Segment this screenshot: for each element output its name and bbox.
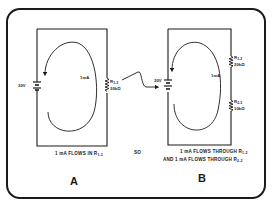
panel-a-label: A <box>70 175 78 187</box>
panel-b-resistor-2-label: R2-3 10kΩ <box>234 99 245 111</box>
connector-text: SO <box>134 150 141 155</box>
panel-b-caption-line-1: 1 mA FLOWS THROUGH R1-2 <box>180 149 248 155</box>
panel-b-voltage-label: 30V <box>154 78 162 83</box>
circuit-b <box>164 29 233 145</box>
panel-a-resistor-label: R1-3 30kΩ <box>110 79 121 91</box>
panel-b-resistor-1-label: R1-2 20kΩ <box>234 55 245 67</box>
panel-b-label: B <box>198 172 206 184</box>
panel-a-voltage-label: 30V <box>18 83 26 88</box>
transition-arrow <box>122 72 157 87</box>
panel-a-current-label: 1mA <box>80 75 89 80</box>
panel-b-caption-line-2: AND 1 mA FLOWS THROUGH R2-3 <box>163 157 243 163</box>
circuit-a <box>33 29 109 146</box>
panel-b-current-label: 1mA <box>211 73 220 78</box>
panel-a-caption: 1 mA FLOWS IN R1-3 <box>55 151 103 157</box>
